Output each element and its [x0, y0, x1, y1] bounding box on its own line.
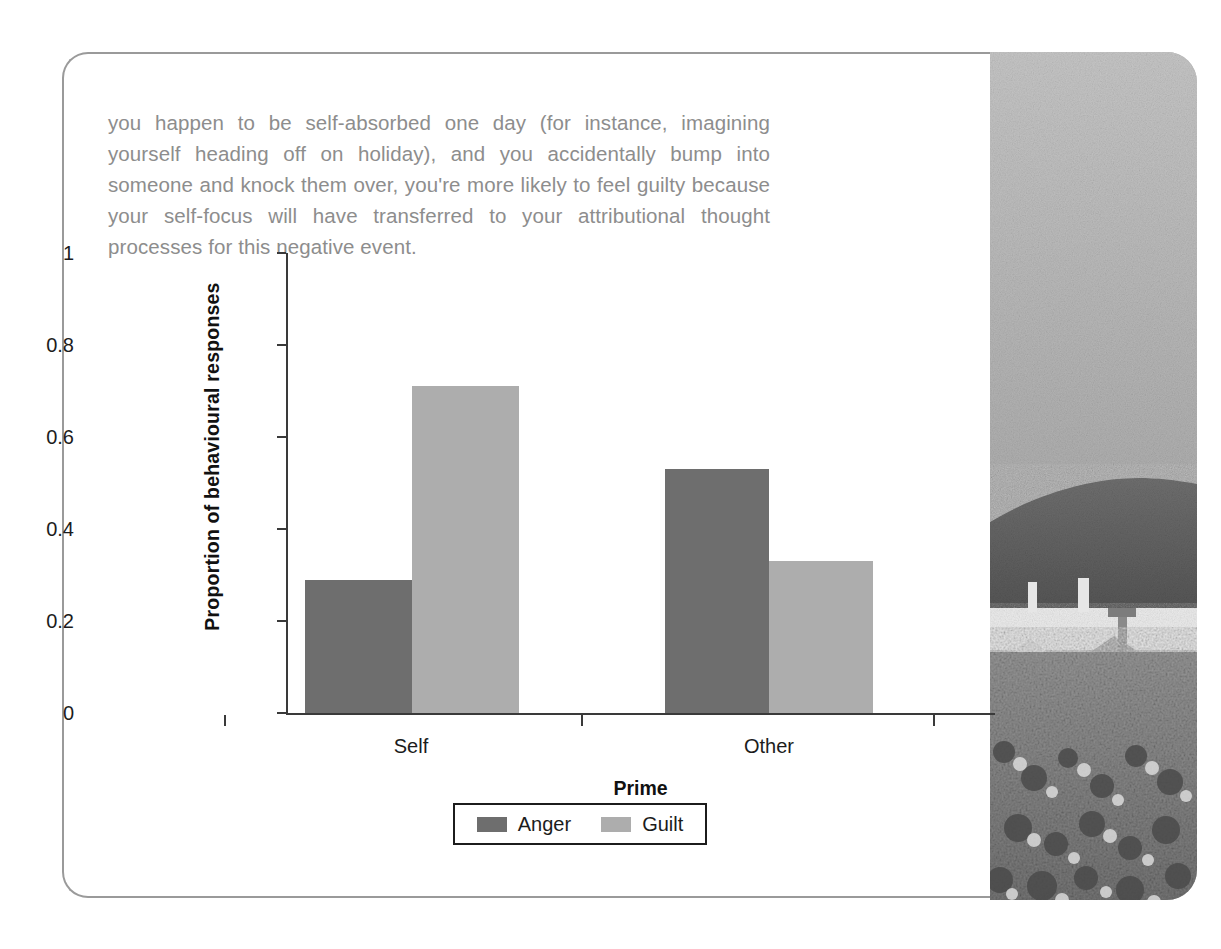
chart-legend: Anger Guilt [453, 803, 707, 845]
legend-item[interactable]: Guilt [601, 814, 683, 834]
bar-chart-figure: Proportion of behavioural responses 00.2… [62, 215, 992, 875]
page-canvas: you happen to be self-absorbed one day (… [0, 0, 1221, 949]
legend-swatch-guilt [601, 817, 631, 832]
x-axis-tick [224, 715, 226, 726]
legend-label-anger: Anger [518, 814, 571, 834]
plot-bars-area [62, 253, 992, 713]
x-axis-category-label: Self [311, 735, 511, 758]
bar-guilt-self [412, 386, 519, 713]
legend-swatch-anger [477, 817, 507, 832]
x-axis-line [286, 713, 995, 715]
sidebar-photo-strip [990, 52, 1197, 900]
bar-anger-self [305, 580, 412, 713]
x-axis-tick [933, 715, 935, 726]
legend-item[interactable]: Anger [477, 814, 571, 834]
bar-guilt-other [769, 561, 873, 713]
festival-photo-image [990, 52, 1197, 900]
x-axis-tick [581, 715, 583, 726]
x-axis-category-label: Other [669, 735, 869, 758]
bar-anger-other [665, 469, 769, 713]
legend-label-guilt: Guilt [642, 814, 683, 834]
x-axis-title: Prime [286, 777, 995, 800]
